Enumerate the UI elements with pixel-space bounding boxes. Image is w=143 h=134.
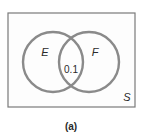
- venn-diagram: E F 0.1 S (a): [0, 0, 143, 134]
- intersection-value: 0.1: [64, 64, 78, 75]
- universe-label: S: [123, 91, 131, 103]
- set-e-label: E: [41, 46, 49, 58]
- universe-rectangle: [8, 13, 135, 107]
- figure-caption: (a): [65, 121, 77, 132]
